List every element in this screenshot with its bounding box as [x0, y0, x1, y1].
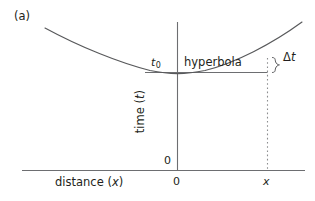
y-axis-label: time (t): [135, 90, 147, 133]
figure-canvas: [0, 0, 315, 201]
x-offset-tick-label: x: [263, 176, 270, 187]
y-origin-tick-label: 0: [164, 155, 171, 166]
x-axis-label-suffix: ): [119, 175, 124, 189]
panel-label: (a): [14, 11, 30, 23]
y-axis-label-prefix: time (: [133, 99, 147, 133]
delta-t-label-var: t: [291, 50, 296, 64]
x-origin-tick-label: 0: [173, 176, 180, 187]
x-axis-label-var: x: [112, 175, 119, 189]
hyperbola-moveout-figure: (a) t0 hyperbola Δt time (t) distance (x…: [0, 0, 315, 201]
hyperbola-curve: [45, 22, 302, 74]
y-axis-label-suffix: ): [133, 90, 147, 95]
t0-label: t0: [151, 57, 160, 68]
y-axis-label-var: t: [133, 95, 147, 100]
delta-t-label-delta: Δ: [283, 50, 291, 64]
x-axis-label: distance (x): [55, 177, 123, 189]
delta-t-label: Δt: [283, 52, 295, 64]
t0-label-base: t: [151, 56, 155, 69]
t0-label-subscript: 0: [156, 61, 161, 70]
x-axis-label-prefix: distance (: [55, 175, 112, 189]
delta-t-brace-icon: [273, 58, 280, 73]
hyperbola-label: hyperbola: [184, 57, 242, 69]
